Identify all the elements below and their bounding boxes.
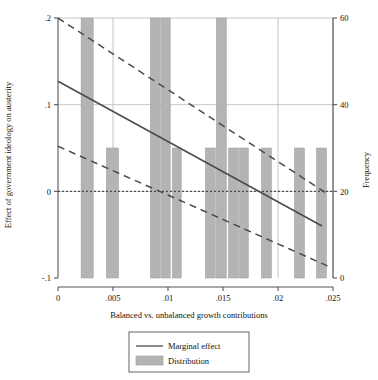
y2-tick-label: 40 (340, 100, 349, 110)
legend-bar-marker-icon (136, 356, 163, 365)
y-tick-label: -.1 (42, 273, 51, 283)
histogram-bar (150, 18, 160, 278)
y2-tick-label: 60 (340, 13, 349, 23)
histogram-bar (216, 18, 226, 278)
y2-tick-label: 20 (340, 187, 349, 197)
y2-tick-label: 0 (340, 273, 344, 283)
histogram-bar (240, 148, 249, 278)
chart-canvas: 0.005.01.015.02.025 -.10.1.2 0204060 Bal… (0, 0, 378, 380)
y-axis-title: Effect of government ideology on austeri… (3, 81, 13, 228)
histogram-bar (172, 148, 181, 278)
histogram-bar (161, 18, 170, 278)
x-tick-label: 0 (56, 293, 60, 303)
x-tick-label: .015 (216, 293, 231, 303)
legend-label-distribution: Distribution (168, 356, 210, 366)
histogram-bar (229, 148, 239, 278)
x-axis-title: Balanced vs. unbalanced growth contribut… (110, 310, 267, 320)
chart-legend: Marginal effect Distribution (129, 332, 249, 372)
y-tick-label: 0 (47, 187, 51, 197)
marginal-effect-chart: 0.005.01.015.02.025 -.10.1.2 0204060 Bal… (0, 0, 378, 380)
legend-label-marginal-effect: Marginal effect (168, 341, 221, 351)
histogram-bar (81, 18, 93, 278)
histogram-bar (106, 148, 118, 278)
x-tick-label: .01 (163, 293, 174, 303)
legend-box (129, 332, 249, 372)
y-tick-label: .2 (45, 13, 51, 23)
histogram-bar (317, 148, 327, 278)
x-tick-label: .025 (326, 293, 341, 303)
x-tick-label: .005 (106, 293, 121, 303)
y-tick-label: .1 (45, 100, 51, 110)
histogram-bar (262, 148, 272, 278)
x-tick-label: .02 (273, 293, 284, 303)
y2-axis-title: Frequency (361, 151, 371, 188)
